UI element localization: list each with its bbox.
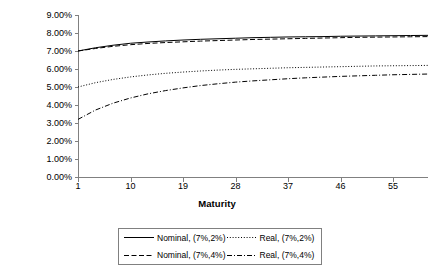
x-tick-label: 28	[221, 182, 251, 191]
x-tick-label: 1	[63, 182, 93, 191]
legend-item[interactable]: Nominal, (7%,4%)	[119, 250, 226, 260]
y-tick-label: 3.00%	[28, 119, 72, 128]
legend-label: Real, (7%,4%)	[260, 250, 315, 260]
x-tick-label: 55	[378, 182, 408, 191]
y-tick-label: 8.00%	[28, 29, 72, 38]
y-axis-tick-labels: 0.00%1.00%2.00%3.00%4.00%5.00%6.00%7.00%…	[26, 0, 72, 280]
x-axis-title: Maturity	[0, 198, 434, 209]
y-tick-label: 6.00%	[28, 65, 72, 74]
y-tick-label: 4.00%	[28, 101, 72, 110]
y-tick-label: 2.00%	[28, 137, 72, 146]
y-tick-label: 1.00%	[28, 155, 72, 164]
legend-item[interactable]: Real, (7%,4%)	[226, 250, 322, 260]
legend-label: Nominal, (7%,4%)	[157, 250, 226, 260]
x-tick-label: 37	[273, 182, 303, 191]
data-series-layer	[78, 35, 428, 119]
legend-swatch-dashed	[124, 251, 154, 260]
legend-label: Real, (7%,2%)	[260, 233, 315, 243]
series-line-3	[78, 74, 428, 119]
chart-legend: Nominal, (7%,2%)Real, (7%,2%)Nominal, (7…	[118, 228, 322, 265]
x-tick-label: 10	[116, 182, 146, 191]
y-tick-label: 9.00%	[28, 11, 72, 20]
series-line-1	[78, 37, 428, 51]
legend-label: Nominal, (7%,2%)	[157, 233, 226, 243]
legend-swatch-dotted	[227, 233, 257, 242]
series-line-0	[78, 35, 428, 51]
y-tick-label: 0.00%	[28, 173, 72, 182]
y-tick-label: 5.00%	[28, 83, 72, 92]
legend-swatch-dashdot	[227, 251, 257, 260]
chart-container: Interest rate (annualized) 0.00%1.00%2.0…	[0, 0, 434, 280]
x-tick-label: 46	[326, 182, 356, 191]
legend-item[interactable]: Nominal, (7%,2%)	[119, 233, 226, 243]
legend-swatch-solid	[124, 233, 154, 242]
legend-item[interactable]: Real, (7%,2%)	[226, 233, 322, 243]
x-tick-label: 19	[168, 182, 198, 191]
y-tick-label: 7.00%	[28, 47, 72, 56]
series-line-2	[78, 65, 428, 87]
